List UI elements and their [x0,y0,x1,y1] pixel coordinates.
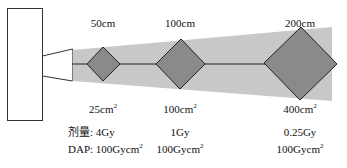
dose-label-1: 剂量: 4Gy [68,126,115,138]
dap-label-2: 100Gycm2 [157,143,204,155]
area-label-3: 400cm2 [283,103,316,115]
x-ray-source-box [8,9,43,121]
distance-label-1: 50cm [91,17,115,29]
distance-label-2: 100cm [165,17,195,29]
area-label-1: 25cm2 [89,103,117,115]
distance-label-3: 200cm [285,17,315,29]
dose-label-3: 0.25Gy [284,126,317,138]
collimator [43,49,73,81]
area-label-2: 100cm2 [163,103,196,115]
dap-label-1: DAP: 100Gycm2 [68,143,143,155]
dose-label-2: 1Gy [171,126,190,138]
dap-label-3: 100Gycm2 [277,143,324,155]
